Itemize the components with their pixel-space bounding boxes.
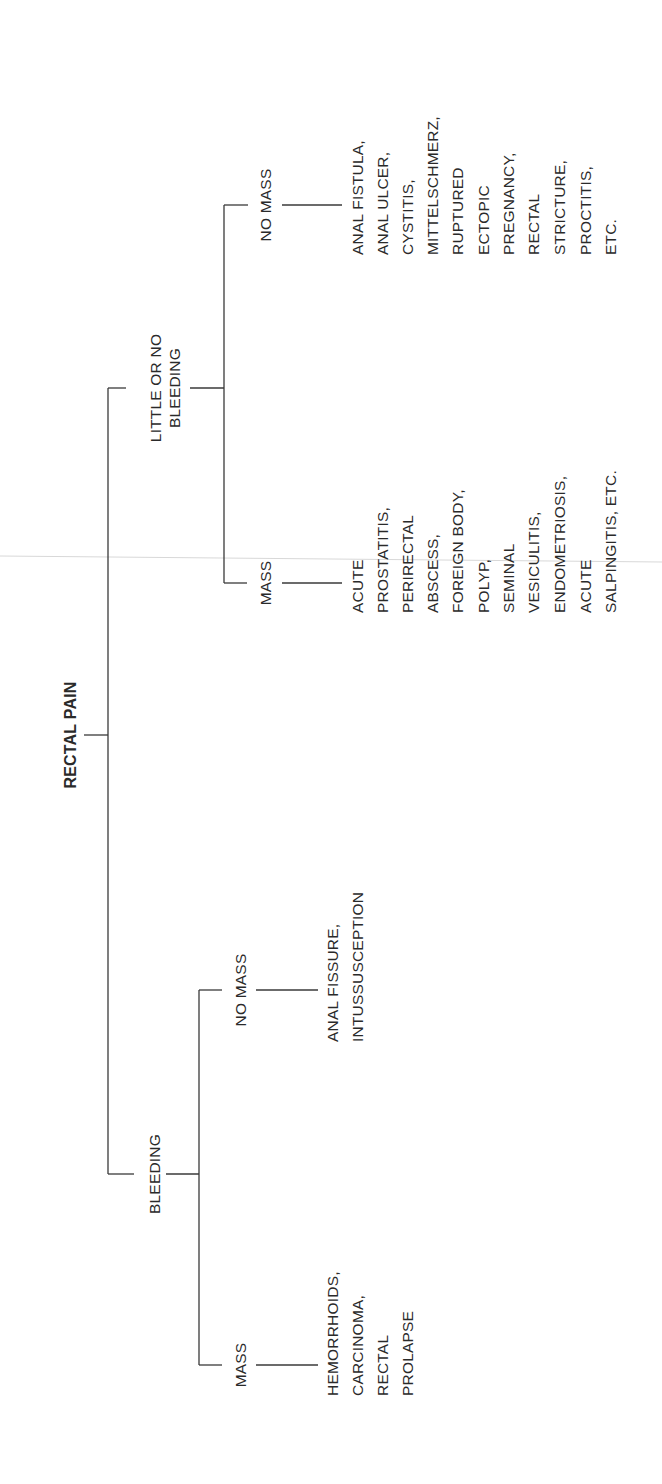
list-item: SALPINGITIS, ETC.: [602, 470, 619, 613]
list-item: ETC.: [602, 219, 619, 255]
diagnosis-list: ANAL FISSURE, INTUSSUSCEPTION: [324, 892, 366, 1042]
list-item: ANAL FISSURE,: [324, 924, 341, 1042]
list-item: CARCINOMA,: [349, 1295, 366, 1396]
list-item: ANAL ULCER,: [374, 152, 391, 255]
branch-label-line-1: LITTLE OR NO: [147, 334, 164, 442]
list-item: ECTOPIC: [475, 185, 492, 255]
list-item: RECTAL: [374, 1335, 391, 1396]
node-little-bleeding-mass: MASS ACUTE PROSTATITIS, PERIRECTAL ABSCE…: [224, 470, 619, 613]
diagnosis-list: HEMORRHOIDS, CARCINOMA, RECTAL PROLAPSE: [324, 1271, 416, 1396]
list-item: INTUSSUSCEPTION: [349, 892, 366, 1042]
list-item: SEMINAL: [500, 543, 517, 613]
list-item: MITTELSCHMERZ,: [424, 116, 441, 255]
root-label: RECTAL PAIN: [62, 681, 79, 788]
list-item: ABSCESS,: [424, 534, 441, 613]
list-item: RUPTURED: [449, 167, 466, 255]
list-item: VESICULITIS,: [525, 512, 542, 613]
node-bleeding-no-mass: NO MASS ANAL FISSURE, INTUSSUSCEPTION: [199, 892, 366, 1042]
list-item: STRICTURE,: [551, 160, 568, 255]
list-item: PROLAPSE: [399, 1311, 416, 1396]
list-item: CYSTITIS,: [399, 179, 416, 255]
list-item: PROCTITIS,: [577, 166, 594, 255]
branch-label: BLEEDING: [146, 1134, 163, 1214]
node-label: MASS: [232, 1343, 249, 1388]
list-item: FOREIGN BODY,: [449, 489, 466, 613]
diagnosis-list: ACUTE PROSTATITIS, PERIRECTAL ABSCESS, F…: [349, 470, 619, 613]
list-item: POLYP,: [475, 559, 492, 613]
node-bleeding-mass: MASS HEMORRHOIDS, CARCINOMA, RECTAL PROL…: [199, 1271, 416, 1396]
diagnostic-tree-diagram: RECTAL PAIN LITTLE OR NO BLEEDING NO MAS…: [0, 0, 662, 1484]
list-item: PREGNANCY,: [500, 153, 517, 256]
list-item: HEMORRHOIDS,: [324, 1271, 341, 1396]
branch-little-or-no-bleeding: LITTLE OR NO BLEEDING NO MASS ANAL FISTU…: [108, 116, 619, 613]
branch-label-line-2: BLEEDING: [166, 348, 183, 428]
list-item: ENDOMETRIOSIS,: [551, 476, 568, 613]
list-item: ACUTE: [577, 559, 594, 613]
list-item: PERIRECTAL: [399, 515, 416, 613]
branch-bleeding: BLEEDING NO MASS ANAL FISSURE, INTUSSUSC…: [108, 892, 416, 1396]
node-label: NO MASS: [257, 169, 274, 242]
list-item: RECTAL: [525, 194, 542, 255]
list-item: ACUTE: [349, 559, 366, 613]
node-label: NO MASS: [232, 954, 249, 1027]
list-item: PROSTATITIS,: [374, 507, 391, 613]
list-item: ANAL FISTULA,: [349, 140, 366, 255]
diagnosis-list: ANAL FISTULA, ANAL ULCER, CYSTITIS, MITT…: [349, 116, 619, 255]
node-little-bleeding-no-mass: NO MASS ANAL FISTULA, ANAL ULCER, CYSTIT…: [224, 116, 619, 255]
node-label: MASS: [257, 561, 274, 606]
root-node: RECTAL PAIN: [62, 681, 108, 788]
